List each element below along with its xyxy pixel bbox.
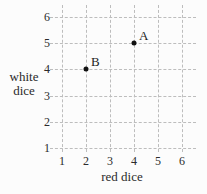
gridline-vertical: [62, 5, 63, 152]
x-tick-label: 1: [55, 154, 69, 168]
gridline-vertical: [134, 5, 135, 152]
x-tick-label: 5: [151, 154, 165, 168]
y-tick-label: 2: [34, 115, 50, 129]
y-tick-label: 1: [34, 141, 50, 155]
y-tick-label: 6: [34, 10, 50, 24]
gridline-horizontal: [50, 148, 196, 149]
x-axis-label: red dice: [72, 169, 172, 185]
gridline-horizontal: [50, 96, 196, 97]
data-point-B: [84, 67, 89, 72]
gridline-vertical: [158, 5, 159, 152]
data-point-label-A: A: [139, 29, 148, 42]
gridline-horizontal: [50, 43, 196, 44]
y-tick-label: 5: [34, 36, 50, 50]
x-tick-label: 2: [79, 154, 93, 168]
data-point-A: [132, 41, 137, 46]
gridline-vertical: [86, 5, 87, 152]
data-point-label-B: B: [91, 55, 100, 68]
y-axis-label: white dice: [1, 70, 47, 97]
gridline-horizontal: [50, 17, 196, 18]
x-tick-label: 3: [103, 154, 117, 168]
x-tick-label: 4: [127, 154, 141, 168]
gridline-vertical: [110, 5, 111, 152]
gridline-vertical: [182, 5, 183, 152]
gridline-horizontal: [50, 122, 196, 123]
scatter-plot: 123456123456AB white dice red dice: [0, 0, 207, 194]
gridline-horizontal: [50, 69, 196, 70]
x-tick-label: 6: [175, 154, 189, 168]
